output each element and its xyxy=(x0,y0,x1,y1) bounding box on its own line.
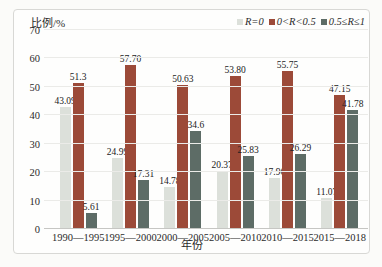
legend-label: 0<R<0.5 xyxy=(277,16,316,27)
legend-item-1: 0<R<0.5 xyxy=(269,16,316,27)
gridline-10 xyxy=(44,200,368,201)
bar-rect xyxy=(269,178,280,229)
bar-2-1: 17.31 xyxy=(138,180,149,229)
legend-label: 0.5≤R≤1 xyxy=(329,16,365,27)
bar-1-2: 50.63 xyxy=(177,85,188,229)
y-tick-label-50: 50 xyxy=(30,82,41,93)
gridline-30 xyxy=(44,143,368,144)
y-axis-ticks: 010203040506070 xyxy=(16,30,42,229)
bar-value-label: 41.78 xyxy=(342,99,363,109)
bar-value-label: 5.61 xyxy=(83,202,100,212)
bar-rect xyxy=(177,85,188,229)
category-label-5: 2015—2018 xyxy=(314,232,367,243)
legend-label: R=0 xyxy=(245,16,264,27)
bar-0-0: 43.09 xyxy=(60,107,71,229)
bar-value-label: 26.29 xyxy=(290,143,311,153)
bar-2-2: 34.6 xyxy=(190,131,201,229)
x-axis-title: 年份 xyxy=(181,236,203,252)
bar-1-1: 57.70 xyxy=(125,65,136,229)
plot-area: 43.0951.35.611990—199524.9957.7017.31199… xyxy=(44,30,368,229)
y-tick-label-70: 70 xyxy=(30,25,41,36)
bar-rect xyxy=(60,107,71,229)
bar-2-3: 25.83 xyxy=(243,156,254,229)
y-tick-label-10: 10 xyxy=(30,196,41,207)
y-tick-label-30: 30 xyxy=(30,139,41,150)
y-tick-label-0: 0 xyxy=(35,224,40,235)
y-tick-label-60: 60 xyxy=(30,53,41,64)
bar-2-0: 5.61 xyxy=(86,213,97,229)
category-label-3: 2005—2010 xyxy=(209,232,262,243)
bar-rect xyxy=(112,158,123,229)
bar-value-label: 51.3 xyxy=(70,72,87,82)
gridline-70 xyxy=(44,29,368,30)
bar-value-label: 53.80 xyxy=(224,65,245,75)
bar-2-4: 26.29 xyxy=(295,154,306,229)
bar-rect xyxy=(347,110,358,229)
bar-rect xyxy=(243,156,254,229)
legend: R=00<R<0.50.5≤R≤1 xyxy=(237,16,365,27)
bar-rect xyxy=(86,213,97,229)
bar-0-5: 11.07 xyxy=(321,198,332,229)
gridline-0 xyxy=(44,228,368,229)
gridline-20 xyxy=(44,171,368,172)
bar-0-1: 24.99 xyxy=(112,158,123,229)
bar-0-2: 14.78 xyxy=(164,187,175,229)
bar-rect xyxy=(190,131,201,229)
chart-figure: 比例/% R=00<R<0.50.5≤R≤1 010203040506070 4… xyxy=(13,9,370,254)
y-tick-label-40: 40 xyxy=(30,110,41,121)
bar-rect xyxy=(295,154,306,229)
bar-value-label: 25.83 xyxy=(237,145,258,155)
y-tick-label-20: 20 xyxy=(30,167,41,178)
category-label-4: 2010—2015 xyxy=(261,232,314,243)
bar-rect xyxy=(164,187,175,229)
bar-value-label: 55.75 xyxy=(277,60,298,70)
gridline-40 xyxy=(44,114,368,115)
bar-rect xyxy=(138,180,149,229)
legend-item-0: R=0 xyxy=(237,16,264,27)
legend-item-2: 0.5≤R≤1 xyxy=(321,16,365,27)
legend-swatch-icon xyxy=(269,19,275,25)
category-label-0: 1990—1995 xyxy=(52,232,105,243)
bar-2-5: 41.78 xyxy=(347,110,358,229)
gridline-60 xyxy=(44,57,368,58)
legend-swatch-icon xyxy=(321,19,327,25)
bar-rect xyxy=(321,198,332,229)
bar-rect xyxy=(125,65,136,229)
bar-0-4: 17.96 xyxy=(269,178,280,229)
legend-swatch-icon xyxy=(237,19,243,25)
gridline-50 xyxy=(44,86,368,87)
bar-value-label: 34.6 xyxy=(188,120,205,130)
bar-value-label: 50.63 xyxy=(172,74,193,84)
category-label-1: 1995—2000 xyxy=(104,232,157,243)
bar-value-label: 57.70 xyxy=(120,54,141,64)
